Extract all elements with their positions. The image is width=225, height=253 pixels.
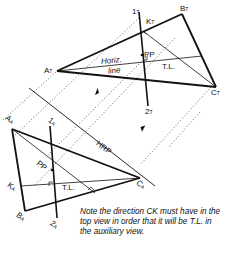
label-2-top: 2T [145, 108, 153, 116]
label-horiz-line-2: line [108, 66, 121, 75]
label-b-top: BT [180, 5, 188, 13]
label-tl-aux: T.L. [62, 184, 75, 192]
label-pp-top: PP [144, 51, 155, 59]
label-1-top: 1T [132, 8, 140, 16]
hrp-reference-line [29, 88, 155, 186]
direction-arrow-aux [139, 124, 145, 132]
direction-arrow-top [95, 88, 99, 95]
label-tl-top: T.L. [162, 63, 175, 71]
projection-lines [3, 18, 211, 185]
label-a-top: AT [44, 67, 52, 75]
aux-view-triangle [12, 126, 140, 218]
top-view-triangle [57, 12, 216, 106]
note-text: Note the direction CK must have in the t… [80, 207, 225, 237]
label-k-top: KT [146, 18, 154, 26]
label-c-top: CT [211, 89, 220, 97]
